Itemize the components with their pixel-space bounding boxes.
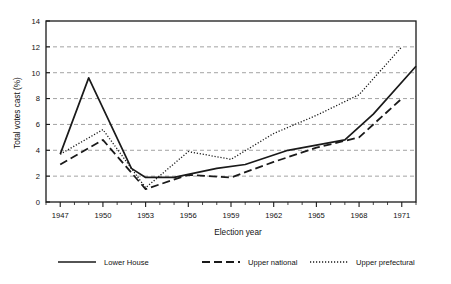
- y-tick-label-4: 4: [36, 146, 40, 155]
- chart-figure: 02468101214 1947195019531956195919621965…: [0, 0, 451, 284]
- data-series: [60, 47, 416, 189]
- series-line-upper-national: [60, 99, 402, 190]
- x-tick-labels: 194719501953195619591962196519681971: [52, 211, 410, 220]
- legend-label-upper-national: Upper national: [248, 258, 298, 267]
- y-tick-label-2: 2: [36, 172, 40, 181]
- legend-label-upper-prefectural: Upper prefectural: [356, 258, 415, 267]
- x-axis-title: Election year: [214, 228, 262, 237]
- y-axis-title: Total votes cast (%): [13, 77, 22, 149]
- series-line-lower-house: [60, 66, 416, 177]
- x-tick-label-1971: 1971: [393, 211, 410, 220]
- y-tick-label-14: 14: [32, 17, 40, 26]
- gridlines: [46, 47, 416, 176]
- x-tick-label-1950: 1950: [94, 211, 111, 220]
- legend-label-lower-house: Lower House: [104, 258, 149, 267]
- chart-legend: Lower HouseUpper nationalUpper prefectur…: [58, 258, 415, 267]
- y-tick-label-0: 0: [36, 198, 40, 207]
- x-tick-label-1953: 1953: [137, 211, 154, 220]
- axis-ticks: [46, 21, 416, 207]
- y-tick-label-12: 12: [32, 43, 40, 52]
- y-tick-label-10: 10: [32, 69, 40, 78]
- y-tick-label-6: 6: [36, 120, 40, 129]
- x-tick-label-1965: 1965: [308, 211, 325, 220]
- x-tick-label-1959: 1959: [223, 211, 240, 220]
- x-tick-label-1956: 1956: [180, 211, 197, 220]
- x-tick-label-1962: 1962: [265, 211, 282, 220]
- y-tick-label-8: 8: [36, 94, 40, 103]
- line-chart: 02468101214 1947195019531956195919621965…: [0, 0, 451, 284]
- plot-border: [46, 21, 416, 202]
- x-tick-label-1968: 1968: [351, 211, 368, 220]
- plot-frame: [46, 21, 416, 202]
- y-tick-labels: 02468101214: [32, 17, 40, 207]
- x-tick-label-1947: 1947: [52, 211, 69, 220]
